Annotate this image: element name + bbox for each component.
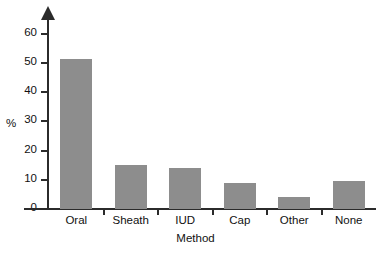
y-tick-mark-40: [41, 91, 48, 93]
bar-other[interactable]: [278, 197, 310, 209]
x-tick-label-other: Other: [267, 214, 322, 226]
y-tick-label-60: 60: [13, 27, 37, 39]
bar-slot-3: [213, 18, 268, 209]
plot-area: [49, 18, 376, 209]
x-tick-label-sheath: Sheath: [104, 214, 159, 226]
bar-cap[interactable]: [224, 183, 256, 209]
y-tick-mark-50: [41, 62, 48, 64]
y-tick-label-40: 40: [13, 85, 37, 97]
x-tick-label-cap: Cap: [213, 214, 268, 226]
x-tick-label-none: None: [322, 214, 377, 226]
y-tick-40: 40: [0, 91, 37, 92]
y-tick-50: 50: [0, 62, 37, 63]
y-tick-mark-10: [41, 179, 48, 181]
bar-slot-0: [49, 18, 104, 209]
bar-slot-2: [158, 18, 213, 209]
y-tick-20: 20: [0, 150, 37, 151]
y-tick-mark-60: [41, 33, 48, 35]
bar-slot-5: [322, 18, 377, 209]
y-tick-label-20: 20: [13, 144, 37, 156]
x-tick-label-iud: IUD: [158, 214, 213, 226]
bar-slot-4: [267, 18, 322, 209]
bar-none[interactable]: [333, 181, 365, 209]
y-tick-label-30: 30: [13, 114, 37, 126]
bar-oral[interactable]: [60, 59, 92, 209]
bar-iud[interactable]: [169, 168, 201, 209]
y-tick-10: 10: [0, 179, 37, 180]
y-tick-mark-20: [41, 150, 48, 152]
y-tick-label-50: 50: [13, 56, 37, 68]
bar-sheath[interactable]: [115, 165, 147, 209]
bar-chart: 0 10 20 30 40 50 60 %: [0, 0, 391, 254]
bar-slot-1: [104, 18, 159, 209]
y-axis-title: %: [6, 117, 16, 129]
x-tick-label-oral: Oral: [49, 214, 104, 226]
y-tick-label-10: 10: [13, 173, 37, 185]
x-axis-title: Method: [0, 232, 391, 244]
y-tick-mark-30: [41, 120, 48, 122]
y-tick-60: 60: [0, 33, 37, 34]
